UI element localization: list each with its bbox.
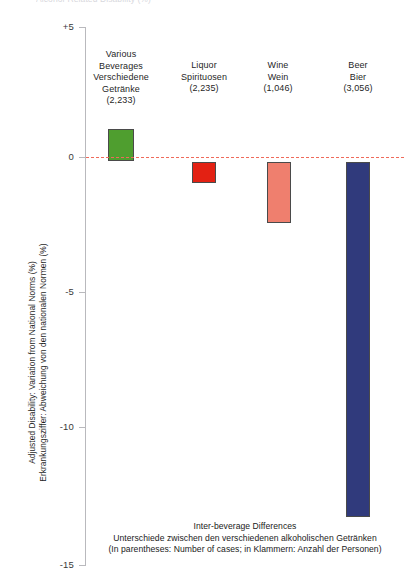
category-label-various-beverages: Various Beverages Verschiedene Getränke …	[73, 49, 169, 107]
caption-line-3: (In parentheses: Number of cases; in Kla…	[88, 544, 402, 556]
cat0-line2: Beverages	[73, 61, 169, 73]
category-label-wine: Wine Wein (1,046)	[238, 60, 318, 95]
y-tick-mark-neg5	[79, 292, 86, 293]
cat3-count: (3,056)	[318, 83, 398, 95]
y-tick-label-neg15: -15	[40, 559, 74, 570]
chart-caption: Inter-beverage Differences Unterschiede …	[88, 521, 402, 556]
y-axis-line	[85, 27, 86, 565]
zero-reference-line	[86, 157, 404, 158]
cat3-line1: Beer	[318, 60, 398, 72]
bar-liquor	[192, 162, 216, 184]
y-axis-title: Adjusted Disability: Variation from Nati…	[27, 213, 48, 513]
y-axis-title-de: Erkrankungsziffer: Abweichung von den na…	[37, 213, 48, 513]
cat1-line1: Liquor	[158, 60, 250, 72]
y-tick-wrap-neg15: -15	[38, 565, 74, 566]
bar-beer	[346, 162, 370, 517]
bar-chart-figure: Alcohol-Related Disability (%) +5 0 -5 -…	[0, 0, 404, 580]
cat2-line1: Wine	[238, 60, 318, 72]
category-label-liquor: Liquor Spirituosen (2,235)	[158, 60, 250, 95]
bar-wine	[267, 162, 291, 224]
cat2-line2: Wein	[238, 72, 318, 84]
cat2-count: (1,046)	[238, 83, 318, 95]
category-label-beer: Beer Bier (3,056)	[318, 60, 398, 95]
y-axis-title-en: Adjusted Disability: Variation from Nati…	[27, 213, 38, 513]
y-tick-mark-neg15	[79, 565, 86, 566]
y-tick-wrap-0: 0	[38, 157, 74, 158]
y-tick-mark-neg10	[79, 427, 86, 428]
clipped-top-title: Alcohol-Related Disability (%)	[36, 0, 376, 6]
y-tick-wrap-5: +5	[38, 27, 74, 28]
cat0-line1: Various	[73, 49, 169, 61]
cat1-count: (2,235)	[158, 83, 250, 95]
y-tick-mark-0	[79, 157, 86, 158]
cat1-line2: Spirituosen	[158, 72, 250, 84]
cat3-line2: Bier	[318, 72, 398, 84]
cat0-line4: Getränke	[73, 84, 169, 96]
y-tick-mark-5	[79, 27, 86, 28]
caption-line-1: Inter-beverage Differences	[88, 521, 402, 533]
cat0-line3: Verschiedene	[73, 72, 169, 84]
cat0-count: (2,233)	[73, 95, 169, 107]
caption-line-2: Unterschiede zwischen den verschiedenen …	[88, 533, 402, 545]
y-tick-label-0: 0	[40, 151, 74, 162]
y-tick-label-plus5: +5	[40, 21, 74, 32]
